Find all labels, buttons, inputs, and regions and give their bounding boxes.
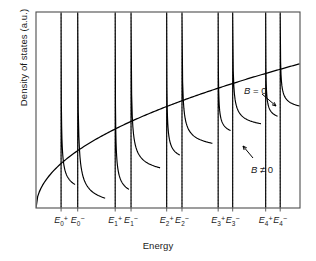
tick-lines — [61, 14, 280, 212]
x-tick-labels: E0+E0−E1+E1−E2+E2−E3+E3−E4+E4− — [0, 214, 316, 232]
landau-peak-E_3^+ — [218, 12, 230, 208]
tick-label-E_3^-: E3− — [226, 214, 240, 227]
landau-peak-E_4^- — [280, 12, 300, 208]
tick-label-E_0^-: E0− — [71, 214, 85, 227]
landau-peak-E_1^+ — [115, 12, 129, 208]
landau-peak-E_1^- — [131, 12, 160, 208]
arrow-b-nonzero — [243, 146, 253, 158]
landau-peak-E_2^- — [182, 12, 212, 208]
tick-label-E_0^+: E0+ — [54, 214, 68, 227]
x-axis-label: Energy — [0, 240, 316, 251]
tick-label-E_2^+: E2+ — [160, 214, 174, 227]
landau-peak-E_0^- — [78, 12, 105, 208]
annotation-arrows — [243, 94, 276, 158]
landau-peak-E_4^+ — [266, 12, 278, 208]
landau-peak-E_0^+ — [61, 12, 75, 208]
landau-peak-E_3^- — [233, 12, 261, 208]
tick-label-E_4^-: E4− — [273, 214, 287, 227]
plot-frame — [36, 12, 300, 208]
figure-root: Density of states (a.u.) Energy E0+E0−E1… — [0, 0, 316, 261]
landau-peak-E_2^+ — [167, 12, 180, 208]
tick-label-E_1^+: E1+ — [108, 214, 122, 227]
b-zero-annotation: B = 0 — [244, 85, 266, 96]
tick-label-E_4^+: E4+ — [259, 214, 273, 227]
curves — [36, 12, 300, 208]
y-axis-label: Density of states (a.u.) — [18, 0, 29, 143]
tick-label-E_1^-: E1− — [124, 214, 138, 227]
tick-label-E_3^+: E3+ — [211, 214, 225, 227]
tick-label-E_2^-: E2− — [175, 214, 189, 227]
b-nonzero-annotation: B ≠ 0 — [251, 164, 273, 175]
